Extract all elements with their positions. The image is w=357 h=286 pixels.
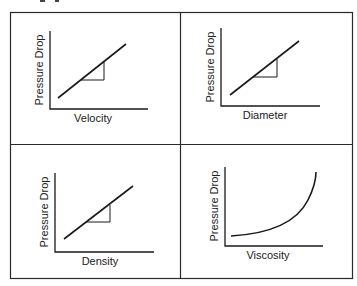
exponential-curve <box>231 172 316 236</box>
y-axis-label: Pressure Drop <box>208 171 220 242</box>
axes <box>50 31 148 109</box>
x-axis-label: Density <box>82 255 119 267</box>
figure-canvas: Pressure Drop Velocity Pressure Drop Dia… <box>0 0 357 286</box>
figure-2x2-pressure-drop: Pressure Drop Velocity Pressure Drop Dia… <box>0 0 357 286</box>
trend-line <box>58 44 126 98</box>
trend-line <box>64 186 133 239</box>
y-axis-label: Pressure Drop <box>204 32 216 103</box>
panel-velocity: Pressure Drop Velocity <box>33 31 148 124</box>
axes <box>225 167 323 246</box>
cropped-caption-fragment <box>40 0 59 2</box>
outer-border <box>11 13 353 279</box>
y-axis-label: Pressure Drop <box>33 35 45 106</box>
axes <box>55 173 154 252</box>
y-axis-label: Pressure Drop <box>38 177 50 248</box>
axes <box>221 28 320 106</box>
x-axis-label: Velocity <box>74 112 112 124</box>
x-axis-label: Diameter <box>243 109 288 121</box>
panel-grid-frame <box>11 13 353 279</box>
trend-line <box>230 41 299 95</box>
x-axis-label: Viscosity <box>246 249 290 261</box>
panel-viscosity: Pressure Drop Viscosity <box>208 167 323 261</box>
panel-density: Pressure Drop Density <box>38 173 154 267</box>
panel-diameter: Pressure Drop Diameter <box>204 28 320 121</box>
